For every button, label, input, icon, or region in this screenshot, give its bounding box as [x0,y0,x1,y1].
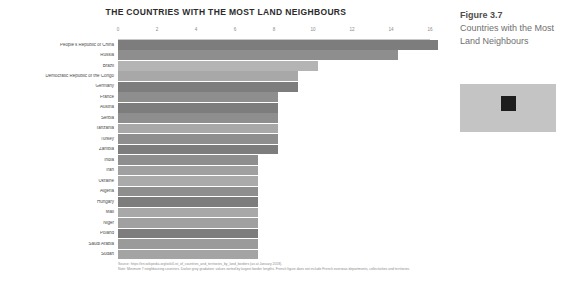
bar-track [118,155,438,165]
bar-track [118,229,438,239]
bar-track [118,82,438,92]
bar-row: Russia [14,50,438,60]
bar-category-label: Poland [14,231,118,236]
broken-image-icon [501,96,516,111]
x-axis-tick: 10 [310,27,315,32]
figure-number: Figure 3.7 [460,9,565,21]
bar-category-label: Germany [14,84,118,89]
bar-track [118,208,438,218]
x-axis-tick: 14 [388,27,393,32]
bar-category-label: Niger [14,221,118,226]
bar-rows: People's Republic of ChinaRussiaBrazilDe… [14,40,438,255]
footnotes: Source: https://en.wikipedia.org/wiki/Li… [118,262,448,272]
bar-track [118,250,438,260]
bar [118,155,258,165]
bar-row: India [14,155,438,165]
chart-title: THE COUNTRIES WITH THE MOST LAND NEIGHBO… [0,7,452,17]
bar-track [118,239,438,249]
bar [118,92,278,102]
bar [118,239,258,249]
bar-track [118,166,438,176]
bar [118,134,278,144]
bar-category-label: People's Republic of China [14,43,118,48]
bar-row: Hungary [14,197,438,207]
bar-track [118,197,438,207]
x-axis-tick: 6 [234,27,237,32]
bar-category-label: Iran [14,168,118,173]
bar-row: Democratic Republic of the Congo [14,71,438,81]
x-axis-tick: 4 [195,27,198,32]
bar [118,61,318,71]
bar [118,145,278,155]
bar-track [118,176,438,186]
bar [118,208,258,218]
x-axis-tick: 16 [427,27,432,32]
bar [118,197,258,207]
bar-category-label: Russia [14,53,118,58]
bar-track [118,40,438,50]
bar-category-label: Saudi Arabia [14,242,118,247]
x-axis-tick: 0 [117,27,120,32]
bar-row: Mali [14,208,438,218]
bar-track [118,124,438,134]
bar [118,103,278,113]
bar-row: Serbia [14,113,438,123]
bar [118,113,278,123]
bar [118,82,298,92]
bar [118,176,258,186]
bar-category-label: Brazil [14,64,118,69]
bar-track [118,103,438,113]
bar-category-label: Serbia [14,116,118,121]
bar-category-label: Tanzania [14,126,118,131]
bar-track [118,113,438,123]
bar [118,187,258,197]
bar-row: Algeria [14,187,438,197]
figure-page: THE COUNTRIES WITH THE MOST LAND NEIGHBO… [0,0,575,288]
bar-track [118,187,438,197]
bar-row: Turkey [14,134,438,144]
bar-category-label: Ukraine [14,179,118,184]
bar-row: Poland [14,229,438,239]
bar [118,71,298,81]
bar-row: Sudan [14,250,438,260]
figure-description: Countries with the Most Land Neighbours [460,22,565,47]
bar [118,229,258,239]
bar-track [118,61,438,71]
bar-category-label: Austria [14,105,118,110]
plot-area: 0246810121416 People's Republic of China… [14,27,438,255]
x-axis: 0246810121416 [118,27,430,38]
bar-row: Niger [14,218,438,228]
bar-track [118,92,438,102]
bar-track [118,50,438,60]
method-note: Note: Minimum 7 neighbouring countries. … [118,267,448,272]
image-placeholder [460,84,556,132]
bar-row: Zambia [14,145,438,155]
bar-row: Austria [14,103,438,113]
caption-panel: Figure 3.7 Countries with the Most Land … [452,0,575,288]
x-axis-tick: 2 [156,27,159,32]
bar [118,250,258,260]
chart-figure: THE COUNTRIES WITH THE MOST LAND NEIGHBO… [0,0,452,288]
bar-category-label: Democratic Republic of the Congo [14,74,118,79]
bar [118,40,438,50]
bar-category-label: Mali [14,210,118,215]
bar-track [118,134,438,144]
x-axis-tick: 12 [349,27,354,32]
bar-category-label: Zambia [14,147,118,152]
bar-row: Brazil [14,61,438,71]
bar-category-label: France [14,95,118,100]
bar-row: Iran [14,166,438,176]
bar-row: France [14,92,438,102]
bar [118,50,398,60]
bar-track [118,218,438,228]
bar-category-label: Turkey [14,137,118,142]
bar-row: Tanzania [14,124,438,134]
bar-category-label: Hungary [14,200,118,205]
bar-row: Ukraine [14,176,438,186]
x-axis-tick: 8 [273,27,276,32]
bar-row: Germany [14,82,438,92]
bar-category-label: Algeria [14,189,118,194]
bar-track [118,71,438,81]
bar-category-label: India [14,158,118,163]
bar [118,218,258,228]
